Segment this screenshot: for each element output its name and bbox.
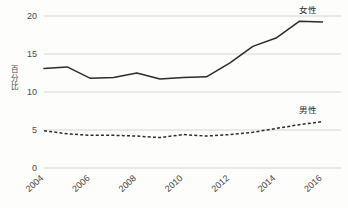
y-tick-label: 15 bbox=[27, 49, 37, 59]
y-tick-label: 0 bbox=[32, 163, 37, 173]
y-tick-label: 20 bbox=[27, 11, 37, 21]
chart-container: 05101520 2004200620082010201220142016 女性… bbox=[0, 0, 348, 208]
y-tick-label: 10 bbox=[27, 87, 37, 97]
series-label-1: 女性 bbox=[299, 5, 317, 15]
series-label-2: 男性 bbox=[299, 105, 317, 115]
line-chart: 05101520 2004200620082010201220142016 女性… bbox=[0, 0, 348, 208]
y-tick-label: 5 bbox=[32, 125, 37, 135]
y-axis-title: 百分比 bbox=[10, 65, 19, 91]
